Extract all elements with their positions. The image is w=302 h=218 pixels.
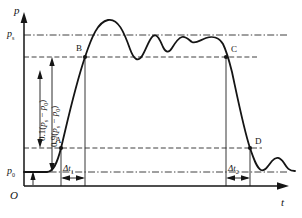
level-label-p-initial-sub: 0 bbox=[12, 172, 15, 178]
figure-root: p t O ps p0 0.1(ps − p0) 0.9(ps − p0) A … bbox=[0, 0, 302, 218]
band-90-p-lo: p bbox=[49, 112, 59, 117]
point-label-c: C bbox=[231, 45, 237, 54]
band-90-suffix: ) bbox=[49, 106, 59, 109]
point-marker-b bbox=[83, 55, 87, 59]
level-label-p-initial: p0 bbox=[7, 166, 15, 178]
band-90-p-lo-sub: 0 bbox=[55, 109, 61, 112]
band-10-prefix: 0.1( bbox=[37, 127, 47, 141]
rise-time-base: Δt bbox=[63, 163, 71, 173]
x-axis-label: t bbox=[281, 197, 284, 208]
band-10-suffix: ) bbox=[37, 100, 47, 103]
fall-time-base: Δt bbox=[228, 163, 236, 173]
annotation-band-10: 0.1(ps − p0) bbox=[38, 100, 49, 141]
band-10-p-lo-sub: 0 bbox=[43, 103, 49, 106]
y-axis-label: p bbox=[14, 5, 20, 16]
interval-label-fall-time: Δt2 bbox=[228, 164, 239, 175]
fall-time-sub: 2 bbox=[236, 169, 239, 175]
band-90-minus: − bbox=[49, 116, 59, 126]
interval-label-rise-time: Δt1 bbox=[63, 164, 74, 175]
band-10-minus: − bbox=[37, 110, 47, 120]
origin-label: O bbox=[10, 190, 18, 201]
band-90-p-hi-sub: s bbox=[55, 126, 61, 128]
level-label-p-steady: ps bbox=[7, 29, 14, 41]
point-label-d: D bbox=[255, 137, 262, 146]
band-90-p-hi: p bbox=[49, 128, 59, 133]
level-label-p-steady-sub: s bbox=[12, 35, 14, 41]
point-label-b: B bbox=[76, 44, 82, 53]
rise-time-sub: 1 bbox=[71, 169, 74, 175]
band-10-p-hi: p bbox=[37, 122, 47, 127]
point-marker-d bbox=[248, 146, 252, 150]
band-10-p-lo: p bbox=[37, 106, 47, 111]
point-marker-c bbox=[224, 55, 228, 59]
point-label-a: A bbox=[55, 136, 62, 145]
band-10-p-hi-sub: s bbox=[43, 120, 49, 122]
